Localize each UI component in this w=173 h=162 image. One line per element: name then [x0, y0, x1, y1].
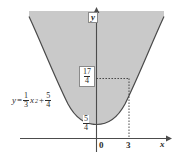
x-axis-arrowhead — [166, 136, 172, 142]
equation-equals: = — [17, 96, 22, 105]
y-intercept-denominator: 4 — [83, 123, 89, 132]
equation-coef-numerator: 1 — [23, 92, 29, 100]
equation-lhs: y — [12, 96, 16, 105]
parabola-shaded-region-figure: y x 0 3 17 4 5 4 y = 1 3 x 2 + 5 4 — [0, 0, 173, 162]
equation-exponent: 2 — [35, 98, 38, 104]
y-level-value-label: 17 4 — [79, 66, 95, 87]
equation-plus: + — [39, 96, 44, 105]
y-intercept-fraction: 5 4 — [83, 115, 89, 132]
x-tick-label-3: 3 — [126, 141, 131, 150]
y-intercept-value-label: 5 4 — [83, 115, 89, 132]
equation-coef-denominator: 3 — [23, 100, 29, 109]
x-axis-label: x — [160, 140, 165, 149]
y-intercept-numerator: 5 — [83, 115, 89, 123]
equation-coefficient-fraction: 1 3 — [23, 92, 29, 109]
y-axis-label: y — [88, 12, 98, 23]
origin-label: 0 — [99, 141, 104, 150]
equation-const-numerator: 5 — [45, 92, 51, 100]
equation-const-denominator: 4 — [45, 100, 51, 109]
y-level-numerator: 17 — [82, 68, 92, 76]
equation-constant-fraction: 5 4 — [45, 92, 51, 109]
y-level-denominator: 4 — [84, 76, 90, 85]
y-level-fraction: 17 4 — [82, 68, 92, 85]
curve-equation-label: y = 1 3 x 2 + 5 4 — [12, 92, 51, 109]
equation-variable: x — [30, 96, 34, 105]
